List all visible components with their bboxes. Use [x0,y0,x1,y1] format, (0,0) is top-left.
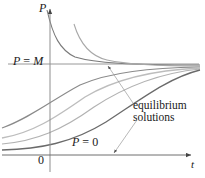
curve-decaying-solution-1 [47,10,200,65]
equilibrium-label-P-equals-M: P=M [13,55,43,67]
equilibrium-label-P-equals-0-value: 0 [92,135,98,149]
diagram-canvas [0,0,205,178]
logistic-solution-curves-figure: P t 0 P=M P=0 equilibrium solutions [0,0,205,178]
equilibrium-label-P-equals-M-operator: = [23,54,30,68]
equilibrium-solutions-annotation-line1: equilibrium [133,99,187,111]
origin-label: 0 [38,154,44,166]
curve-decaying-solution-2 [74,24,200,66]
vertical-axis-label: P [39,2,46,14]
equilibrium-label-P-equals-0-operator: = [82,135,89,149]
equilibrium-label-P-equals-0-variable: P [72,135,79,149]
solution-curves [2,10,200,150]
equilibrium-label-P-equals-M-variable: P [13,54,20,68]
leader-line-to-P-equals-0 [114,120,137,153]
horizontal-axis-label: t [191,159,194,170]
equilibrium-solutions-annotation-line2: solutions [133,111,187,123]
equilibrium-label-P-equals-M-value: M [33,54,43,68]
equilibrium-label-P-equals-0: P=0 [72,136,98,148]
equilibrium-solutions-annotation: equilibrium solutions [133,99,187,123]
